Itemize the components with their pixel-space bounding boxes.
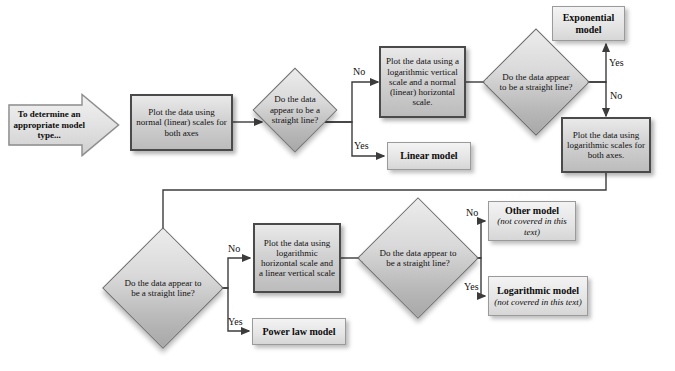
flowchart-canvas: To determine an appropriate model type..…	[0, 0, 675, 371]
logarithmic-model-subtitle: (not covered in this text)	[494, 297, 582, 307]
node-plot-normal-scales: Plot the data using normal (linear) scal…	[130, 94, 233, 151]
linear-model-title: Linear model	[400, 150, 457, 162]
edge-d1-no	[325, 82, 378, 122]
power-law-model-title: Power law model	[262, 326, 335, 338]
edge-label-d2-yes: Yes	[609, 57, 624, 68]
node-decision-2: Do the data appear to be a straight line…	[498, 44, 574, 120]
exponential-model-title: Exponential model	[557, 12, 620, 35]
node-plot-log-horizontal-text: Plot the data using logarithmic horizont…	[258, 238, 336, 279]
logarithmic-model-title: Logarithmic model	[497, 285, 579, 297]
node-power-law-model: Power law model	[252, 318, 346, 345]
node-plot-log-both-axes: Plot the data using logarithmic scales f…	[561, 117, 651, 173]
decision-3-label: Do the data appear to be a straight line…	[120, 278, 206, 299]
node-decision-4: Do the data appear to be a straight line…	[375, 215, 461, 301]
node-plot-normal-text: Plot the data using normal (linear) scal…	[135, 107, 228, 138]
start-arrow: To determine an appropriate model type..…	[8, 93, 120, 157]
edge-label-d3-no: No	[228, 243, 240, 254]
node-exponential-model: Exponential model	[552, 6, 625, 41]
other-model-title: Other model	[505, 205, 559, 217]
node-logarithmic-model: Logarithmic model (not covered in this t…	[488, 276, 588, 316]
node-decision-1: Do the data appear to be a straight line…	[265, 80, 325, 140]
decision-4-label: Do the data appear to be a straight line…	[375, 248, 461, 269]
node-other-model: Other model (not covered in this text)	[488, 201, 576, 241]
node-decision-3: Do the data appear to be a straight line…	[120, 245, 206, 331]
edge-label-d4-yes: Yes	[464, 281, 479, 292]
edge-label-d4-no: No	[466, 207, 478, 218]
node-linear-model: Linear model	[387, 142, 471, 170]
edge-label-d2-no: No	[610, 90, 622, 101]
edge-label-d1-yes: Yes	[354, 140, 369, 151]
node-plot-log-vertical-text: Plot the data using a logarithmic vertic…	[384, 56, 461, 107]
decision-2-label: Do the data appear to be a straight line…	[498, 72, 574, 93]
edge-label-d3-yes: Yes	[228, 316, 243, 327]
edge-label-d1-no: No	[353, 66, 365, 77]
other-model-subtitle: (not covered in this text)	[493, 216, 571, 237]
node-plot-log-vertical: Plot the data using a logarithmic vertic…	[379, 46, 466, 118]
node-plot-log-both-axes-text: Plot the data using logarithmic scales f…	[566, 130, 646, 161]
start-arrow-label: To determine an appropriate model type..…	[10, 109, 88, 141]
decision-1-label: Do the data appear to be a straight line…	[265, 94, 325, 125]
node-plot-log-horizontal: Plot the data using logarithmic horizont…	[253, 223, 341, 293]
